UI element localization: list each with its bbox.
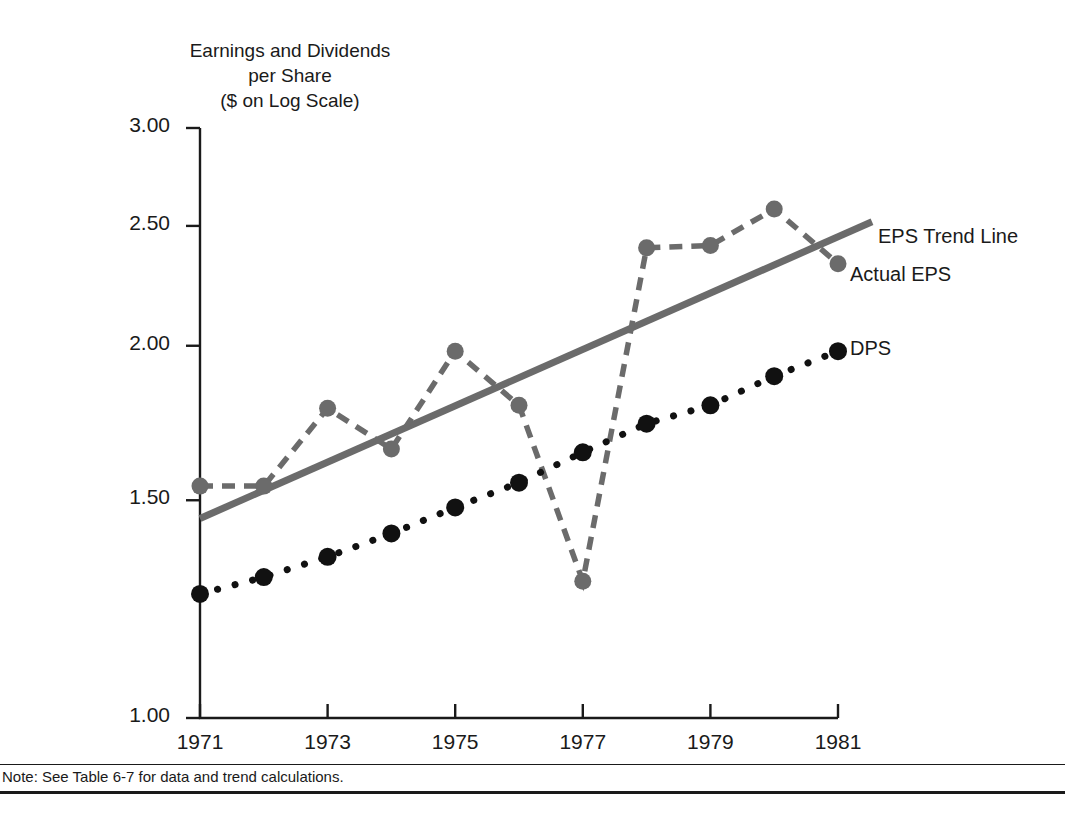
dps-marker-1981	[829, 342, 847, 360]
actual-eps-marker-1973	[319, 400, 336, 417]
dps-marker-1971	[191, 585, 209, 603]
actual-eps-marker-1971	[192, 478, 209, 495]
actual-eps-marker-1974	[383, 441, 400, 458]
chart-figure: Earnings and Dividends per Share ($ on L…	[0, 0, 1065, 817]
series-label-actual-eps: Actual EPS	[850, 263, 951, 286]
chart-axes	[200, 128, 838, 718]
series-label-eps-trend-line: EPS Trend Line	[878, 225, 1018, 248]
dps-marker-1977	[574, 443, 592, 461]
y-tick-label-2.50: 2.50	[90, 211, 170, 235]
x-tick-label-1979: 1979	[665, 730, 755, 754]
dps-marker-1978	[638, 415, 656, 433]
y-tick-label-2.00: 2.00	[90, 331, 170, 355]
x-tick-label-1973: 1973	[283, 730, 373, 754]
dps-marker-1974	[382, 524, 400, 542]
x-tick-label-1981: 1981	[793, 730, 883, 754]
actual-eps-marker-1979	[702, 237, 719, 254]
dps-marker-1973	[319, 548, 337, 566]
x-tick-label-1977: 1977	[538, 730, 628, 754]
dps-marker-1975	[446, 498, 464, 516]
actual-eps-line	[200, 209, 838, 581]
actual-eps-marker-1981	[830, 255, 847, 272]
actual-eps-marker-1975	[447, 343, 464, 360]
dps-marker-1979	[701, 396, 719, 414]
dps-marker-1980	[765, 367, 783, 385]
x-tick-label-1971: 1971	[155, 730, 245, 754]
y-tick-label-1.50: 1.50	[90, 485, 170, 509]
y-tick-label-3.00: 3.00	[90, 113, 170, 137]
actual-eps-marker-1980	[766, 200, 783, 217]
dps-marker-1976	[510, 474, 528, 492]
figure-note: Note: See Table 6-7 for data and trend c…	[0, 768, 1065, 785]
y-tick-label-1.00: 1.00	[90, 703, 170, 727]
actual-eps-marker-1978	[638, 239, 655, 256]
actual-eps-marker-1977	[574, 573, 591, 590]
series-label-dps: DPS	[850, 337, 891, 360]
note-rule-bottom	[0, 791, 1065, 794]
actual-eps-marker-1972	[255, 478, 272, 495]
note-rule-top	[0, 764, 1065, 765]
dps-marker-1972	[255, 568, 273, 586]
x-tick-label-1975: 1975	[410, 730, 500, 754]
actual-eps-marker-1976	[511, 397, 528, 414]
